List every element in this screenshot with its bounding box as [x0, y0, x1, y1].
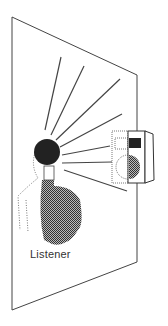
- tweeter-icon: [129, 138, 141, 148]
- wall-plane: [12, 17, 137, 310]
- loudspeaker: [112, 131, 154, 183]
- listener-torso: [40, 180, 81, 245]
- diagram-canvas: Listener: [0, 0, 168, 326]
- listener-label: Listener: [30, 248, 71, 260]
- listener-head: [34, 139, 60, 165]
- sound-rays: [45, 57, 127, 191]
